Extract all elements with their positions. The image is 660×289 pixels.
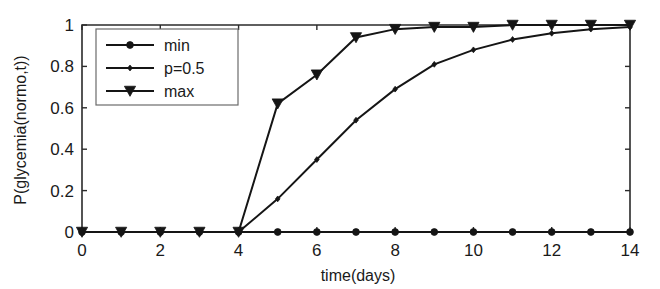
- x-tick-label: 10: [464, 241, 483, 260]
- data-point: [392, 229, 399, 236]
- chart-canvas: 02468101214 00.20.40.60.81 time(days) P(…: [0, 0, 660, 289]
- x-tick-label: 14: [621, 241, 640, 260]
- y-tick-label: 0.2: [50, 182, 74, 201]
- data-point: [509, 229, 516, 236]
- y-axis-label: P(glycemia(normo,t)): [12, 55, 29, 204]
- data-point: [587, 229, 594, 236]
- x-tick-label: 4: [234, 241, 243, 260]
- legend-label: max: [164, 83, 194, 100]
- data-point: [431, 229, 438, 236]
- y-tick-label: 0.4: [50, 140, 74, 159]
- x-axis-label: time(days): [321, 267, 396, 284]
- chart-legend: minp=0.5max: [96, 29, 238, 105]
- chart-figure: 02468101214 00.20.40.60.81 time(days) P(…: [0, 0, 660, 289]
- data-point: [274, 229, 281, 236]
- data-point: [548, 229, 555, 236]
- x-tick-label: 8: [390, 241, 399, 260]
- legend-sample-marker: [127, 42, 134, 49]
- legend-label: min: [164, 37, 190, 54]
- y-tick-label: 0.6: [50, 99, 74, 118]
- x-tick-label: 6: [312, 241, 321, 260]
- x-tick-label: 2: [156, 241, 165, 260]
- data-point: [313, 229, 320, 236]
- y-tick-label: 0.8: [50, 57, 74, 76]
- y-tick-label: 1: [65, 16, 74, 35]
- data-point: [353, 229, 360, 236]
- x-tick-label: 0: [77, 241, 86, 260]
- data-point: [470, 229, 477, 236]
- y-tick-label: 0: [65, 223, 74, 242]
- legend-label: p=0.5: [164, 60, 205, 77]
- x-tick-label: 12: [542, 241, 561, 260]
- data-point: [627, 229, 634, 236]
